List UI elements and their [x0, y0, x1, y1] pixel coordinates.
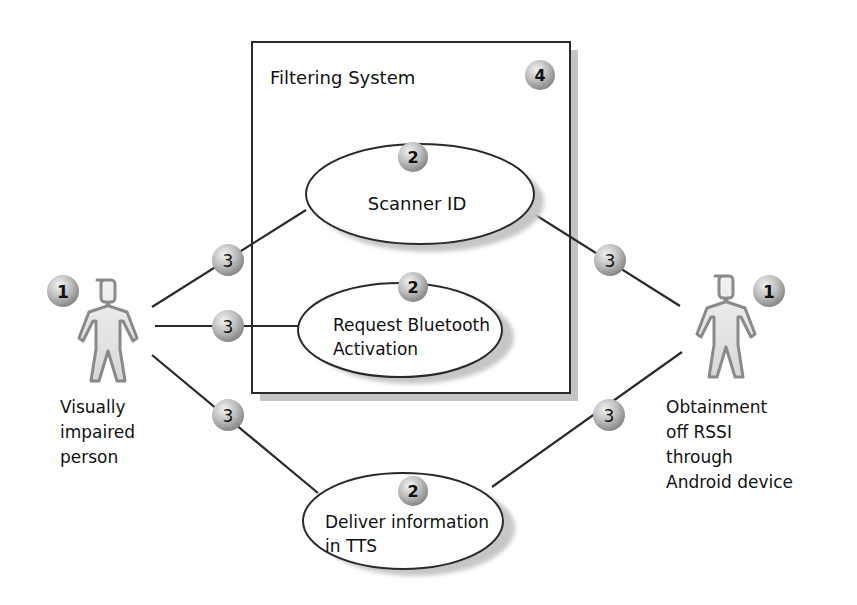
svg-text:2: 2 [407, 148, 418, 167]
svg-text:1: 1 [57, 282, 69, 302]
actor-label-line: Android device [666, 470, 793, 495]
system-boundary-title: Filtering System [270, 67, 415, 88]
badge-association: 3 [593, 399, 625, 431]
badge-system: 4 [525, 60, 555, 90]
svg-text:3: 3 [223, 406, 234, 426]
use-case-label: Scanner ID [368, 193, 467, 214]
actor-label-line: through [666, 445, 793, 470]
actor-label-line: Obtainment [666, 395, 793, 420]
svg-text:3: 3 [223, 317, 234, 337]
badge-actor: 1 [47, 275, 79, 307]
badge-association: 3 [594, 244, 626, 276]
svg-text:1: 1 [763, 282, 775, 302]
use-case-label-line-1: Request Bluetooth [333, 315, 490, 335]
use-case-label-line-2: in TTS [325, 536, 377, 556]
svg-text:3: 3 [605, 251, 616, 271]
badge-use-case: 2 [398, 142, 428, 172]
actor-label-line: off RSSI [666, 420, 793, 445]
badge-association: 3 [212, 310, 244, 342]
badge-use-case: 2 [398, 272, 428, 302]
use-case-diagram: Filtering System 4 Scanner ID 2 Request … [0, 0, 857, 605]
badge-actor: 1 [753, 275, 785, 307]
badge-use-case: 2 [398, 476, 428, 506]
badge-association: 3 [212, 244, 244, 276]
svg-text:3: 3 [223, 251, 234, 271]
actor-person-icon [79, 280, 137, 381]
use-case-label-line-1: Deliver information [325, 512, 489, 532]
actor-label-visually-impaired-person: Visually impaired person [60, 395, 135, 470]
svg-text:3: 3 [604, 406, 615, 426]
actor-person-icon [697, 276, 755, 377]
actor-label-line: Visually [60, 395, 135, 420]
use-case-deliver-information-tts[interactable]: Deliver information in TTS 2 [303, 473, 515, 576]
actor-android-device[interactable]: 1 [697, 275, 785, 377]
svg-text:2: 2 [407, 278, 418, 297]
svg-text:2: 2 [407, 482, 418, 501]
actor-visually-impaired-person[interactable]: 1 [47, 275, 137, 381]
badge-association: 3 [212, 399, 244, 431]
actor-label-android-device: Obtainment off RSSI through Android devi… [666, 395, 793, 495]
svg-text:4: 4 [534, 66, 545, 85]
actor-label-line: person [60, 445, 135, 470]
use-case-label-line-2: Activation [333, 339, 418, 359]
actor-label-line: impaired [60, 420, 135, 445]
